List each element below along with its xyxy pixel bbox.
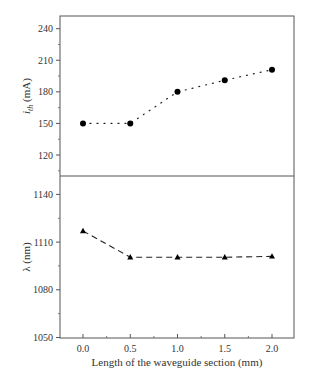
top-y-axis-label: ith (mA) — [20, 78, 35, 114]
y-tick-label: 1080 — [33, 284, 53, 295]
circle-marker — [175, 89, 181, 95]
plot-frame — [60, 16, 294, 338]
triangle-marker — [80, 228, 86, 233]
top-series-threshold-current — [80, 67, 275, 127]
y-tick-label: 1110 — [34, 237, 53, 248]
top-y-axis: 120150180210240 — [38, 23, 60, 171]
x-tick-label: 0.0 — [77, 343, 90, 354]
x-tick-label: 1.0 — [171, 343, 184, 354]
y-tick-label: 150 — [38, 118, 53, 129]
chart: 120150180210240 1050108011101140 0.00.51… — [0, 0, 310, 381]
dashed-line — [83, 231, 272, 257]
bottom-series-wavelength — [80, 228, 275, 260]
y-tick-label: 240 — [38, 23, 53, 34]
y-tick-label: 180 — [38, 86, 53, 97]
y-tick-label: 120 — [38, 150, 53, 161]
y-tick-label: 1050 — [33, 332, 53, 343]
x-tick-label: 0.5 — [124, 343, 137, 354]
circle-marker — [127, 120, 133, 126]
x-axis: 0.00.51.01.52.0 — [77, 334, 279, 354]
triangle-marker — [127, 254, 133, 259]
circle-marker — [80, 120, 86, 126]
bottom-y-axis-label: λ (nm) — [20, 242, 33, 272]
x-tick-label: 2.0 — [266, 343, 279, 354]
y-tick-label: 210 — [38, 55, 53, 66]
circle-marker — [222, 77, 228, 83]
y-tick-label: 1140 — [33, 189, 53, 200]
dotted-line — [83, 70, 272, 124]
circle-marker — [269, 67, 275, 73]
x-axis-label: Length of the waveguide section (mm) — [92, 356, 263, 369]
bottom-y-axis: 1050108011101140 — [33, 189, 60, 343]
x-tick-label: 1.5 — [219, 343, 232, 354]
